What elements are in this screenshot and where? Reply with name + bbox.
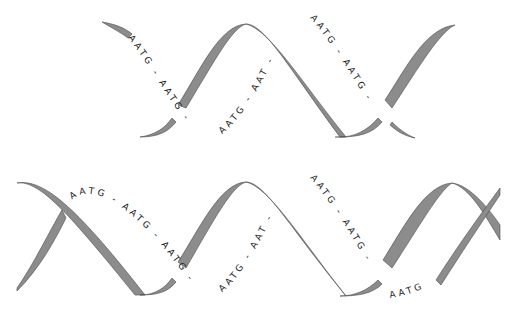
sequence-label: AATG - AAT -	[217, 212, 275, 294]
ribbon-segment	[390, 122, 415, 138]
sequence-label: AATG - AAT -	[217, 54, 276, 135]
ribbon-segment	[140, 278, 176, 295]
sequence-label: AATG - AATG -	[126, 33, 192, 124]
ribbon-segment	[17, 210, 66, 291]
sequence-label: AATG - AATG -	[308, 173, 374, 264]
ribbon-segment	[17, 183, 145, 295]
ribbon-segment	[385, 25, 455, 108]
ribbon-segment	[178, 24, 246, 108]
bottom-helix: AATG - AATG - AATG - AATG - AAT - AATG -…	[17, 173, 500, 300]
ribbon-segment	[383, 183, 452, 268]
ribbon-segment	[140, 118, 176, 137]
dna-diagram: AATG - AATG - AATG - AAT - AATG - AATG -…	[0, 0, 518, 311]
ribbon-segment	[102, 22, 132, 38]
ribbon-segment	[436, 188, 500, 285]
sequence-label: AATG	[389, 280, 426, 300]
ribbon-segment	[340, 118, 382, 137]
sequence-label: AATG - AATG -	[308, 13, 375, 104]
ribbon-segment	[178, 182, 246, 268]
top-helix: AATG - AATG - AATG - AAT - AATG - AATG -	[102, 13, 455, 138]
ribbon-segment	[340, 280, 382, 296]
